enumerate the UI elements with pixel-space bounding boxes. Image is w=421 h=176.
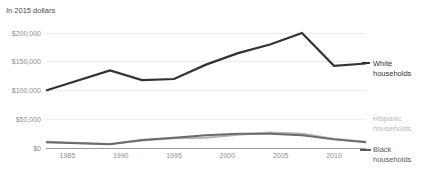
y-tick-label: $100,000	[12, 87, 41, 94]
x-tick-label: 1985	[60, 152, 76, 159]
x-tick-label: 1995	[166, 152, 182, 159]
legend-label-black-line2: households	[373, 155, 412, 164]
legend-label-white-line1: White	[373, 59, 392, 68]
x-tick-label: 1990	[113, 152, 129, 159]
legend-label-hispanic-line2: households	[373, 124, 412, 133]
y-tick-label: $200,000	[12, 30, 41, 37]
legend-label-white-line2: households	[373, 69, 412, 78]
x-tick-label: 2005	[273, 152, 289, 159]
chart-subtitle: In 2015 dollars	[6, 6, 55, 15]
y-tick-label: $150,000	[12, 58, 41, 65]
y-tick-label: $0	[33, 145, 41, 152]
legend-label-black-line1: Black	[373, 145, 392, 154]
x-tick-label: 2010	[326, 152, 342, 159]
x-tick-label: 2000	[220, 152, 236, 159]
chart-background	[0, 0, 421, 176]
net-worth-line-chart: In 2015 dollars $0$50,000$100,000$150,00…	[0, 0, 421, 176]
y-tick-label: $50,000	[16, 116, 41, 123]
legend-label-hispanic-line1: Hispanic	[373, 114, 402, 123]
